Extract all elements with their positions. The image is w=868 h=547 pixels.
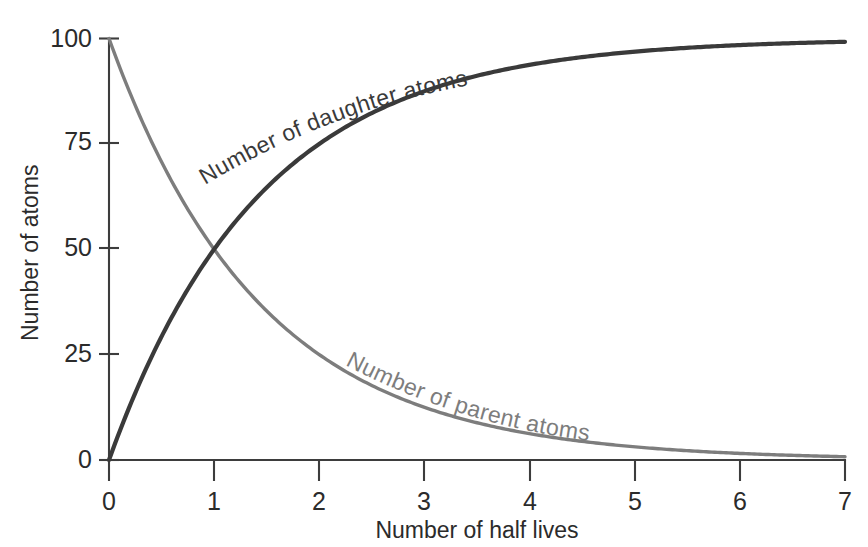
x-tick-label-6: 6: [733, 487, 747, 515]
y-tick-label-25: 25: [64, 339, 92, 367]
y-tick-label-50: 50: [64, 233, 92, 261]
x-tick-label-3: 3: [417, 487, 431, 515]
y-tick-label-0: 0: [78, 445, 92, 473]
x-tick-label-5: 5: [628, 487, 642, 515]
y-tick-label-100: 100: [50, 24, 92, 52]
parent-curve-label: Number of parent atoms: [343, 346, 592, 445]
daughter-curve-label: Number of daughter atoms: [194, 65, 469, 190]
parent-atoms-curve: [109, 39, 845, 457]
x-tick-label-4: 4: [523, 487, 537, 515]
x-tick-label-0: 0: [102, 487, 116, 515]
y-axis-title: Number of atoms: [17, 165, 43, 341]
radioactive-decay-chart: Number of atoms 100 75 50 25 0 0 1 2 3 4…: [0, 0, 868, 547]
chart-svg: Number of atoms 100 75 50 25 0 0 1 2 3 4…: [0, 0, 868, 547]
y-tick-label-75: 75: [64, 127, 92, 155]
x-tick-label-7: 7: [838, 487, 852, 515]
x-axis-title: Number of half lives: [375, 517, 578, 543]
x-tick-label-1: 1: [207, 487, 221, 515]
x-tick-label-2: 2: [312, 487, 326, 515]
